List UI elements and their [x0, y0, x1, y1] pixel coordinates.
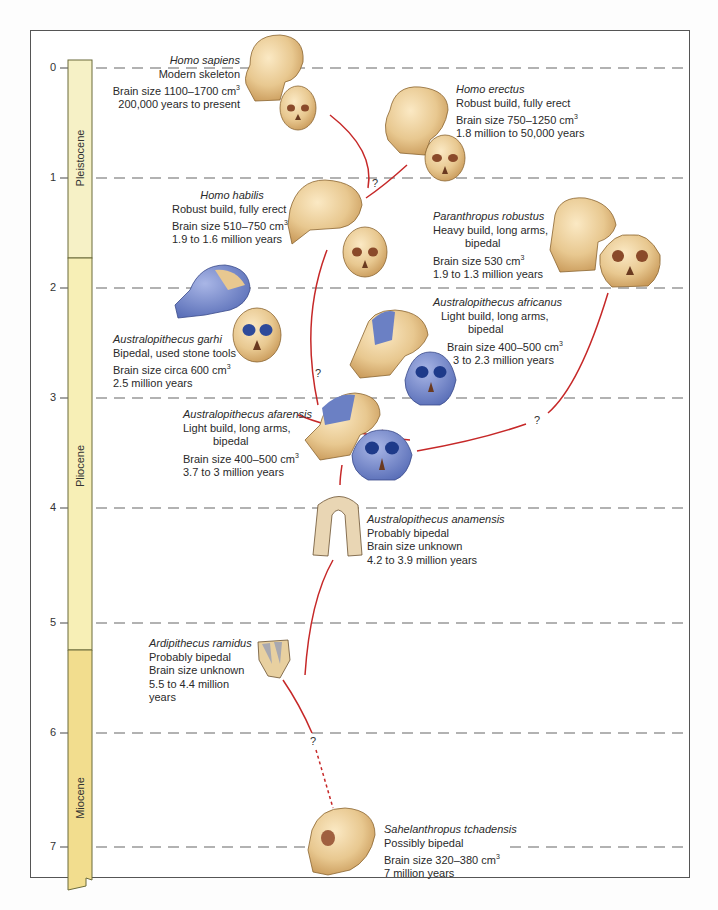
species-australopithecus-anamensis: Australopithecus anamensis Probably bipe…	[367, 513, 517, 567]
tick-label-4: 4	[36, 501, 56, 513]
homo-erectus-skull-front-icon	[425, 135, 465, 181]
tick-label-6: 6	[36, 726, 56, 738]
species-line: Brain size 400–500 cm3	[433, 337, 583, 354]
species-line: Possibly bipedal	[384, 837, 534, 851]
species-line: 4.2 to 3.9 million years	[367, 554, 517, 568]
species-line: Brain size 510–750 cm3	[172, 216, 292, 233]
species-line: Probably bipedal	[367, 527, 517, 541]
homo-habilis-skull-front-icon	[343, 227, 387, 277]
species-sahelanthropus-tchadensis: Sahelanthropus tchadensis Possibly biped…	[384, 823, 534, 881]
species-homo-habilis: Homo habilis Robust build, fully erect B…	[172, 189, 292, 247]
tick-label-5: 5	[36, 616, 56, 628]
species-line: Brain size 1100–1700 cm3	[110, 81, 240, 98]
species-line: Brain size 320–380 cm3	[384, 850, 534, 867]
species-line: Brain size 750–1250 cm3	[456, 110, 626, 127]
species-name: Homo erectus	[456, 83, 626, 97]
species-australopithecus-afarensis: Australopithecus afarensis Light build, …	[183, 408, 313, 479]
species-line: Brain size unknown	[149, 664, 259, 678]
species-line: 1.9 to 1.3 million years	[433, 268, 563, 282]
australopithecus-anamensis-jaw-icon	[313, 497, 362, 557]
species-paranthropus-robustus: Paranthropus robustus Heavy build, long …	[433, 210, 563, 281]
species-name: Homo sapiens	[110, 54, 240, 68]
australopithecus-garhi-skull-profile-icon	[175, 265, 250, 318]
australopithecus-afarensis-skull-front-icon	[352, 430, 412, 480]
species-line: Modern skeleton	[110, 68, 240, 82]
uncertain-link-marker: ?	[534, 414, 540, 426]
epoch-label-pleistocene: Pleistocene	[74, 118, 86, 198]
species-name: Homo habilis	[172, 189, 292, 203]
species-line: Brain size circa 600 cm3	[113, 360, 243, 377]
species-line: 1.8 million to 50,000 years	[456, 127, 626, 141]
species-line: 1.9 to 1.6 million years	[172, 233, 292, 247]
species-line: Heavy build, long arms,	[433, 224, 563, 238]
species-line: 3 to 2.3 million years	[433, 354, 583, 368]
species-homo-erectus: Homo erectus Robust build, fully erect B…	[456, 83, 626, 141]
species-line: Robust build, fully erect	[456, 97, 626, 111]
uncertain-link-marker: ?	[372, 177, 378, 189]
species-line: bipedal	[433, 323, 583, 337]
uncertain-link-marker: ?	[315, 367, 321, 379]
species-name: Ardipithecus ramidus	[149, 637, 259, 651]
species-line: 3.7 to 3 million years	[183, 466, 313, 480]
species-line: 2.5 million years	[113, 377, 243, 391]
species-line: Light build, long arms,	[183, 422, 313, 436]
species-ardipithecus-ramidus: Ardipithecus ramidus Probably bipedal Br…	[149, 637, 259, 705]
species-homo-sapiens: Homo sapiens Modern skeleton Brain size …	[110, 54, 240, 112]
species-name: Australopithecus anamensis	[367, 513, 517, 527]
sahelanthropus-tchadensis-skull-icon	[308, 808, 375, 875]
species-line: 5.5 to 4.4 million years	[149, 678, 259, 705]
tick-label-0: 0	[36, 61, 56, 73]
paranthropus-robustus-skull-front-icon	[600, 235, 661, 287]
epoch-label-pliocene: Pliocene	[74, 426, 86, 506]
uncertain-link-marker: ?	[310, 735, 316, 747]
species-name: Australopithecus africanus	[433, 296, 583, 310]
tick-label-3: 3	[36, 391, 56, 403]
species-line: bipedal	[183, 435, 313, 449]
species-line: 7 million years	[384, 867, 534, 881]
species-line: Probably bipedal	[149, 651, 259, 665]
species-australopithecus-garhi: Australopithecus garhi Bipedal, used sto…	[113, 333, 243, 391]
species-line: Brain size 400–500 cm3	[183, 449, 313, 466]
epoch-label-miocene: Miocene	[74, 758, 86, 838]
species-line: Light build, long arms,	[433, 310, 583, 324]
species-australopithecus-africanus: Australopithecus africanus Light build, …	[433, 296, 583, 367]
tick-label-1: 1	[36, 171, 56, 183]
species-line: Brain size 530 cm3	[433, 251, 563, 268]
species-name: Paranthropus robustus	[433, 210, 563, 224]
species-line: Bipedal, used stone tools	[113, 347, 243, 361]
species-line: Brain size unknown	[367, 540, 517, 554]
homo-sapiens-skull-front-icon	[280, 86, 316, 130]
species-line: Robust build, fully erect	[172, 203, 292, 217]
tick-label-2: 2	[36, 281, 56, 293]
species-line: bipedal	[433, 237, 563, 251]
species-name: Sahelanthropus tchadensis	[384, 823, 534, 837]
species-name: Australopithecus garhi	[113, 333, 243, 347]
species-line: 200,000 years to present	[110, 98, 240, 112]
tick-label-7: 7	[36, 840, 56, 852]
ardipithecus-ramidus-teeth-icon	[258, 640, 290, 678]
species-name: Australopithecus afarensis	[183, 408, 313, 422]
